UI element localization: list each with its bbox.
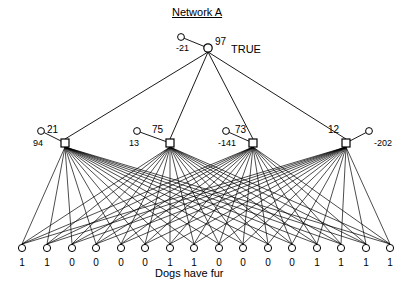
edge-hidden-0-input-0 bbox=[22, 147, 65, 244]
input-value-5: 0 bbox=[138, 258, 152, 268]
hidden-node-value-1: 75 bbox=[152, 125, 163, 135]
input-value-2: 0 bbox=[65, 258, 79, 268]
hidden-node-value-2: 73 bbox=[235, 125, 246, 135]
hidden-bias-value-3: -202 bbox=[374, 139, 392, 148]
input-node-11[interactable] bbox=[288, 244, 295, 251]
edge-hidden-0-input-14 bbox=[65, 147, 366, 244]
input-value-10: 0 bbox=[261, 258, 275, 268]
edge-output-hidden-1 bbox=[170, 52, 208, 139]
input-node-10[interactable] bbox=[264, 244, 271, 251]
edge-hidden-2-input-0 bbox=[22, 147, 253, 244]
input-node-5[interactable] bbox=[141, 244, 148, 251]
edge-output-hidden-0 bbox=[65, 52, 208, 139]
input-value-4: 0 bbox=[114, 258, 128, 268]
input-node-1[interactable] bbox=[43, 244, 50, 251]
hidden-node-value-0: 21 bbox=[47, 125, 58, 135]
network-diagram bbox=[0, 0, 406, 288]
input-value-3: 0 bbox=[89, 258, 103, 268]
input-to-hidden-edges bbox=[22, 147, 390, 244]
input-node-7[interactable] bbox=[190, 244, 197, 251]
input-value-9: 0 bbox=[236, 258, 250, 268]
hidden-node-2[interactable] bbox=[249, 139, 257, 147]
edge-hidden-3-input-3 bbox=[96, 147, 346, 244]
edge-hidden-1-input-9 bbox=[170, 147, 243, 244]
input-node-2[interactable] bbox=[68, 244, 75, 251]
input-value-8: 0 bbox=[212, 258, 226, 268]
edge-output-hidden-2 bbox=[208, 52, 253, 139]
output-bias-value: -21 bbox=[176, 44, 189, 53]
hidden-node-1[interactable] bbox=[166, 139, 174, 147]
bias-edges bbox=[41, 37, 369, 143]
page-title: Network A bbox=[172, 7, 222, 18]
hidden-to-output-edges bbox=[65, 52, 346, 139]
bias-node-hidden-0 bbox=[38, 128, 45, 135]
output-node-value: 97 bbox=[215, 37, 226, 47]
input-node-13[interactable] bbox=[337, 244, 344, 251]
edge-hidden-3-input-15 bbox=[346, 147, 390, 244]
diagram-caption: Dogs have fur bbox=[155, 268, 223, 279]
input-node-9[interactable] bbox=[239, 244, 246, 251]
hidden-node-3[interactable] bbox=[342, 139, 350, 147]
input-node-15[interactable] bbox=[386, 244, 393, 251]
edge-output-hidden-3 bbox=[208, 52, 346, 139]
output-node[interactable] bbox=[204, 44, 212, 52]
hidden-bias-value-0: 94 bbox=[33, 139, 43, 148]
input-value-7: 1 bbox=[187, 258, 201, 268]
input-node-4[interactable] bbox=[117, 244, 124, 251]
input-node-6[interactable] bbox=[166, 244, 173, 251]
output-true-label: TRUE bbox=[231, 44, 261, 55]
hidden-bias-value-2: -141 bbox=[218, 139, 236, 148]
input-value-0: 1 bbox=[15, 258, 29, 268]
bias-node-hidden-1 bbox=[134, 128, 141, 135]
input-node-8[interactable] bbox=[215, 244, 222, 251]
input-node-14[interactable] bbox=[362, 244, 369, 251]
input-value-11: 0 bbox=[285, 258, 299, 268]
bias-node-hidden-2 bbox=[223, 128, 230, 135]
input-value-1: 1 bbox=[40, 258, 54, 268]
input-node-12[interactable] bbox=[313, 244, 320, 251]
input-value-15: 1 bbox=[383, 258, 397, 268]
hidden-node-value-3: 12 bbox=[328, 125, 339, 135]
input-value-14: 1 bbox=[359, 258, 373, 268]
edge-hidden-3-input-8 bbox=[219, 147, 346, 244]
hidden-node-0[interactable] bbox=[61, 139, 69, 147]
edge-hidden-1-input-1 bbox=[47, 147, 170, 244]
edge-hidden-2-input-1 bbox=[47, 147, 253, 244]
input-value-12: 1 bbox=[310, 258, 324, 268]
input-node-3[interactable] bbox=[92, 244, 99, 251]
hidden-bias-value-1: 13 bbox=[129, 139, 139, 148]
input-value-6: 1 bbox=[163, 258, 177, 268]
input-value-13: 1 bbox=[334, 258, 348, 268]
input-node-0[interactable] bbox=[18, 244, 25, 251]
bias-node-output bbox=[178, 34, 185, 41]
bias-node-hidden-3 bbox=[366, 128, 373, 135]
